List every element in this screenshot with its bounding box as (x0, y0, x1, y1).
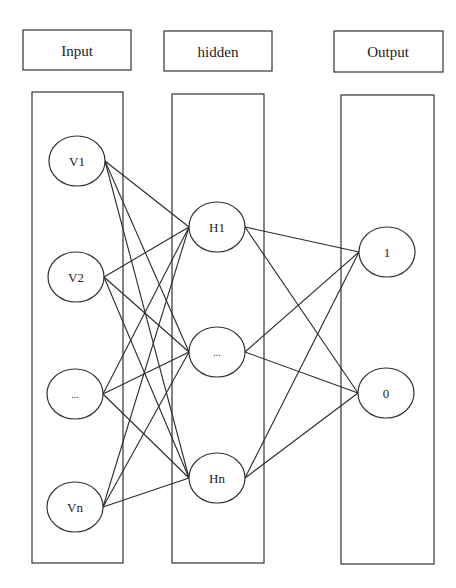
hidden-node-hn: Hn (189, 453, 245, 503)
output-node-0: 0 (358, 368, 414, 418)
header-output: Output (334, 31, 443, 72)
connection-edge (105, 161, 189, 227)
node-label: ... (71, 389, 79, 400)
connection-edge (245, 252, 359, 478)
node-label: H1 (209, 220, 225, 235)
node-label: Vn (67, 500, 83, 515)
header-hidden: hidden (164, 31, 272, 71)
input-node-v2: V2 (48, 252, 104, 302)
hidden-node-ellipsis: ... (189, 327, 245, 377)
node-label: ... (213, 347, 221, 358)
output-node-1: 1 (359, 227, 415, 277)
node-label: 0 (383, 386, 390, 401)
input-node-v1: V1 (49, 136, 105, 186)
node-label: 1 (384, 245, 391, 260)
connection-edge (245, 252, 359, 352)
connection-edge (105, 161, 189, 478)
node-label: Hn (209, 471, 225, 486)
connection-edge (104, 277, 189, 478)
neural-network-diagram: Input hidden Output V1 V2 ... Vn H1 ... (0, 0, 456, 588)
node-label: V2 (68, 270, 84, 285)
hidden-output-connections (245, 227, 359, 478)
header-output-label: Output (367, 44, 410, 60)
connection-edge (245, 227, 359, 252)
connection-edge (103, 352, 189, 394)
connection-edge (104, 277, 189, 352)
hidden-node-h1: H1 (189, 202, 245, 252)
input-hidden-connections (103, 161, 189, 507)
header-input: Input (23, 30, 131, 70)
connection-edge (103, 478, 189, 507)
output-layer-column (341, 95, 434, 564)
node-label: V1 (69, 154, 85, 169)
connection-edge (105, 161, 189, 352)
header-input-label: Input (61, 43, 93, 59)
input-node-ellipsis: ... (47, 369, 103, 419)
input-node-vn: Vn (47, 482, 103, 532)
header-hidden-label: hidden (198, 44, 239, 60)
